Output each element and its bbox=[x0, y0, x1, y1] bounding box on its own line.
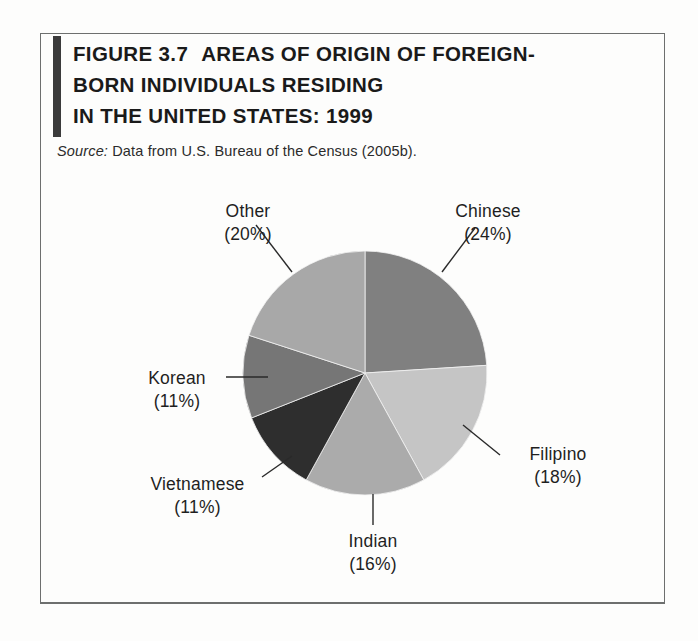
pie-label-indian-name: Indian bbox=[349, 531, 398, 551]
pie-label-indian-value: (16%) bbox=[330, 553, 416, 576]
pie-label-filipino-value: (18%) bbox=[508, 466, 608, 489]
figure-container: FIGURE 3.7AREAS OF ORIGIN OF FOREIGN- BO… bbox=[0, 0, 698, 641]
leader-line-filipino bbox=[463, 425, 500, 455]
pie-label-vietnamese-name: Vietnamese bbox=[150, 474, 244, 494]
pie-label-indian: Indian (16%) bbox=[330, 530, 416, 576]
pie-label-vietnamese: Vietnamese (11%) bbox=[130, 473, 265, 519]
pie-slice-group bbox=[243, 251, 487, 495]
pie-label-korean-name: Korean bbox=[148, 368, 206, 388]
pie-label-other-name: Other bbox=[226, 201, 271, 221]
pie-label-chinese: Chinese (24%) bbox=[438, 200, 538, 246]
pie-label-other-value: (20%) bbox=[203, 223, 293, 246]
pie-label-filipino: Filipino (18%) bbox=[508, 443, 608, 489]
pie-slice-chinese bbox=[365, 251, 487, 373]
pie-chart: Other (20%) Chinese (24%) Filipino (18%)… bbox=[0, 0, 698, 641]
pie-label-chinese-value: (24%) bbox=[438, 223, 538, 246]
pie-label-korean-value: (11%) bbox=[131, 390, 223, 413]
pie-label-chinese-name: Chinese bbox=[455, 201, 521, 221]
pie-label-filipino-name: Filipino bbox=[529, 444, 586, 464]
pie-label-other: Other (20%) bbox=[203, 200, 293, 246]
pie-label-korean: Korean (11%) bbox=[131, 367, 223, 413]
pie-label-vietnamese-value: (11%) bbox=[130, 496, 265, 519]
